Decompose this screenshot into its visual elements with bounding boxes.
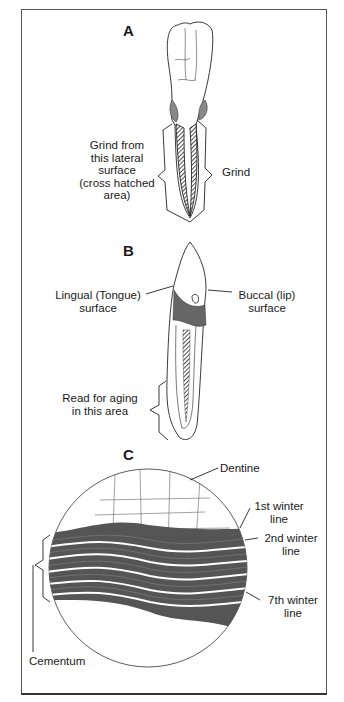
cross-section-circle — [33, 468, 260, 667]
grind-surface-label: Grind from this lateral surface (cross h… — [72, 139, 162, 202]
label-line: 2nd winter — [258, 532, 324, 545]
label-line: line — [248, 513, 310, 526]
panel-letter-c: C — [123, 446, 134, 463]
tooth-a-drawing — [158, 22, 213, 222]
label-line: this lateral — [72, 152, 162, 165]
label-line: Grind from — [72, 139, 162, 152]
label-line: Read for aging — [56, 392, 144, 405]
label-line: in this area — [56, 405, 144, 418]
label-line: Buccal (lip) — [234, 289, 300, 302]
label-line: surface — [50, 302, 146, 315]
panel-letter-b: B — [123, 242, 134, 259]
label-line: line — [260, 607, 326, 620]
cementum-label: Cementum — [29, 655, 85, 668]
lingual-surface-label: Lingual (Tongue) surface — [50, 289, 146, 314]
label-line: 1st winter — [248, 500, 310, 513]
label-line: line — [258, 545, 324, 558]
seventh-winter-line-label: 7th winter line — [260, 594, 326, 619]
label-line: surface — [234, 302, 300, 315]
label-line: Lingual (Tongue) — [50, 289, 146, 302]
buccal-surface-label: Buccal (lip) surface — [234, 289, 300, 314]
dentine-label: Dentine — [220, 462, 260, 475]
second-winter-line-label: 2nd winter line — [258, 532, 324, 557]
panel-letter-a: A — [123, 22, 134, 39]
grind-label: Grind — [222, 166, 250, 179]
label-line: area) — [72, 189, 162, 202]
tooth-b-drawing — [146, 242, 232, 440]
label-line: surface — [72, 164, 162, 177]
first-winter-line-label: 1st winter line — [248, 500, 310, 525]
read-aging-label: Read for aging in this area — [56, 392, 144, 417]
label-line: (cross hatched — [72, 177, 162, 190]
label-line: 7th winter — [260, 594, 326, 607]
